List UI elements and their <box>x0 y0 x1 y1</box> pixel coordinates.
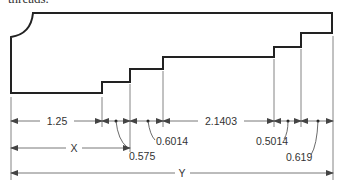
dim-label-1-25: 1.25 <box>47 115 68 127</box>
dim-label-0-5014: 0.5014 <box>256 135 288 147</box>
dim-label-0-6014: 0.6014 <box>156 135 188 147</box>
dim-label-0-575: 0.575 <box>129 150 155 162</box>
shaft-diagram: 1.25 0.575 0.6014 2.1403 0.5014 0.619 X … <box>0 0 343 189</box>
dim-label-x: X <box>70 142 77 154</box>
part-outline <box>11 13 332 93</box>
dim-label-y: Y <box>178 167 185 179</box>
dim-label-0-619: 0.619 <box>286 151 312 163</box>
dim-label-2-1403: 2.1403 <box>205 115 237 127</box>
